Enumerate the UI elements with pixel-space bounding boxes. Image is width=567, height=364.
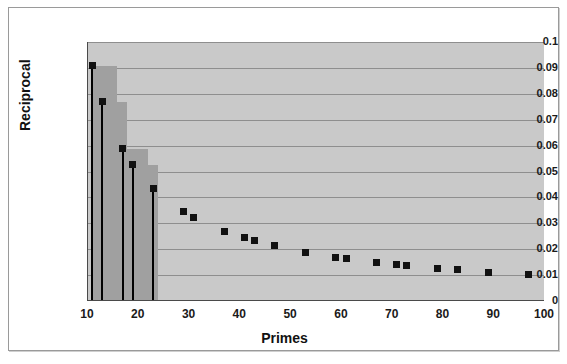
y-tick-label: 0 [490,295,558,306]
stem-line [101,102,103,301]
data-point-marker [403,262,410,269]
x-tick-label: 50 [270,307,310,321]
data-point-marker [241,234,248,241]
y-tick-label: 0.09 [490,62,558,73]
gridline [87,42,544,43]
data-point-marker [454,266,461,273]
data-point-marker [150,185,157,192]
x-tick-label: 40 [219,307,259,321]
data-point-marker [89,62,96,69]
stem-line [152,188,154,301]
gridline [87,146,544,147]
x-tick-label: 80 [422,307,462,321]
y-tick-label: 0.08 [490,88,558,99]
x-tick-label: 10 [67,307,107,321]
y-tick-label: 0.02 [490,243,558,254]
data-point-marker [251,237,258,244]
data-point-marker [302,249,309,256]
y-tick-label: 0.04 [490,191,558,202]
x-tick-label: 70 [372,307,412,321]
data-point-marker [373,259,380,266]
gridline [87,68,544,69]
stem-line [122,149,124,301]
stem-line [91,66,93,301]
data-point-marker [434,265,441,272]
stem-line [132,165,134,301]
gridline [87,94,544,95]
data-point-marker [332,254,339,261]
chart-frame: 00.010.020.030.040.050.060.070.080.090.1… [8,7,559,351]
gridline [87,120,544,121]
data-point-marker [190,214,197,221]
y-axis-title: Reciprocal [17,111,33,131]
data-point-marker [99,98,106,105]
x-axis-title: Primes [9,330,560,346]
data-point-marker [129,161,136,168]
y-tick-label: 0.05 [490,166,558,177]
data-point-marker [343,255,350,262]
plot-area [87,42,544,301]
y-tick-label: 0.01 [490,269,558,280]
x-tick-label: 20 [118,307,158,321]
x-tick-label: 60 [321,307,361,321]
x-tick-label: 30 [169,307,209,321]
y-axis-title-text: Reciprocal [17,59,33,131]
y-tick-label: 0.03 [490,217,558,228]
screenshot-root: 00.010.020.030.040.050.060.070.080.090.1… [0,0,567,364]
y-tick-label: 0.1 [490,36,558,47]
data-point-marker [119,145,126,152]
x-tick-label: 100 [524,307,564,321]
data-point-marker [180,208,187,215]
data-point-marker [393,261,400,268]
data-point-marker [221,228,228,235]
y-tick-label: 0.06 [490,140,558,151]
x-tick-label: 90 [473,307,513,321]
y-tick-label: 0.07 [490,114,558,125]
data-point-marker [271,242,278,249]
